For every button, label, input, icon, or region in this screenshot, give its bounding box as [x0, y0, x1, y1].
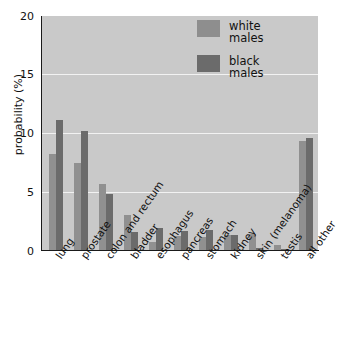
legend-entry-white-males: white males	[197, 20, 264, 44]
legend-label-black-males-line2: males	[229, 67, 264, 79]
x-tick-label-lung: lung	[53, 235, 76, 261]
legend-label-white-males-line2: males	[229, 32, 264, 44]
x-tick-label-all-other: all other	[303, 218, 338, 261]
black-males-swatch-icon	[197, 55, 220, 72]
x-tick-label-testis: testis	[278, 231, 304, 261]
legend-label-black-males: black males	[229, 55, 264, 79]
legend-entry-black-males: black males	[197, 55, 264, 79]
white-males-swatch-icon	[197, 20, 220, 37]
legend: white males black males	[197, 20, 264, 90]
legend-label-white-males: white males	[229, 20, 264, 44]
